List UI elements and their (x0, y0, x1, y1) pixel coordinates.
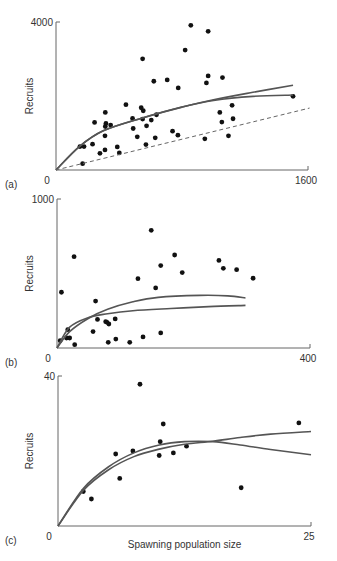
data-point (204, 81, 209, 86)
data-point (220, 75, 225, 80)
data-point (219, 120, 224, 125)
data-point (127, 340, 132, 345)
axes (58, 376, 311, 526)
y-tick-label: 40 (44, 371, 56, 382)
data-point (183, 48, 188, 53)
x-tick-label: 0 (44, 175, 50, 186)
data-point (158, 331, 163, 336)
data-point (89, 497, 94, 502)
y-axis-label: Recruits (24, 78, 35, 115)
y-tick-label: 4000 (31, 17, 54, 28)
data-point (153, 286, 158, 291)
data-point (217, 258, 222, 263)
data-point (180, 270, 185, 275)
data-point (153, 135, 158, 140)
x-tick-label: 0 (46, 531, 52, 542)
data-point (172, 253, 177, 258)
panel-c: 02540Recruits(c)Spawning population size (5, 371, 315, 550)
data-point (151, 79, 156, 84)
fitted-curve (58, 441, 311, 526)
data-point (103, 110, 108, 115)
data-point (144, 123, 149, 128)
data-point (59, 290, 64, 295)
data-point (206, 29, 211, 34)
data-point (149, 228, 154, 233)
data-point (72, 342, 77, 347)
data-point (91, 329, 96, 334)
data-point (296, 420, 301, 425)
data-point (106, 322, 111, 327)
data-point (157, 453, 162, 458)
data-point (113, 317, 118, 322)
data-point (171, 450, 176, 455)
data-point (103, 148, 108, 153)
panel-label: (c) (5, 535, 17, 546)
data-point (226, 133, 231, 138)
data-point (93, 299, 98, 304)
fitted-curve (56, 85, 293, 170)
data-point (98, 151, 103, 156)
data-point (131, 126, 136, 131)
data-point (251, 276, 256, 281)
data-point (104, 121, 109, 126)
data-point (113, 337, 118, 342)
data-point (231, 116, 236, 121)
y-axis-label: Recruits (24, 433, 35, 470)
data-point (230, 103, 235, 108)
data-point (221, 266, 226, 271)
data-point (202, 136, 207, 141)
data-point (170, 129, 175, 134)
data-point (92, 120, 97, 125)
data-point (165, 78, 170, 83)
data-point (149, 118, 154, 123)
stock-recruitment-figure: 016004000Recruits(a)04001000Recruits(b)0… (0, 0, 337, 561)
data-point (67, 336, 72, 341)
data-point (217, 110, 222, 115)
data-point (103, 133, 108, 138)
data-point (158, 263, 163, 268)
data-point (115, 145, 120, 150)
y-axis-label: Recruits (24, 255, 35, 292)
data-point (161, 422, 166, 427)
data-point (90, 142, 95, 147)
data-point (95, 317, 100, 322)
data-point (176, 86, 181, 91)
y-tick-label: 1000 (32, 194, 55, 205)
replacement-line (56, 108, 310, 170)
data-point (124, 102, 129, 107)
data-point (140, 56, 145, 61)
data-point (136, 276, 141, 281)
data-point (141, 108, 146, 113)
fitted-curve (57, 295, 245, 348)
data-point (106, 340, 111, 345)
data-point (138, 382, 143, 387)
data-point (117, 476, 122, 481)
data-point (239, 485, 244, 490)
data-point (176, 133, 181, 138)
data-point (72, 254, 77, 259)
data-point (144, 142, 149, 147)
panel-label: (a) (5, 179, 17, 190)
data-point (135, 134, 140, 139)
panel-a: 016004000Recruits(a) (5, 17, 318, 190)
x-tick-label: 400 (300, 353, 317, 364)
data-point (206, 74, 211, 79)
fitted-curve (57, 305, 245, 348)
x-tick-label: 25 (303, 531, 315, 542)
data-point (80, 161, 85, 166)
x-tick-label: 0 (45, 353, 51, 364)
panel-label: (b) (5, 357, 17, 368)
panel-b: 04001000Recruits(b) (5, 194, 317, 368)
data-point (234, 267, 239, 272)
x-tick-label: 1600 (295, 175, 318, 186)
data-point (113, 452, 118, 457)
data-point (141, 335, 146, 340)
x-axis-label: Spawning population size (128, 539, 242, 550)
data-point (188, 23, 193, 28)
data-point (158, 439, 163, 444)
